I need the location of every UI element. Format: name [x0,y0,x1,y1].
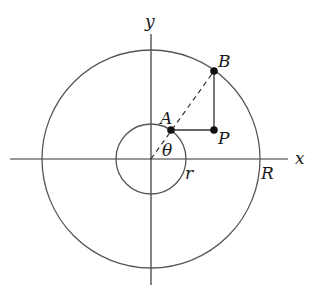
point-P [210,126,218,134]
label-y-axis: y [144,11,155,31]
label-point-A: A [158,108,172,128]
label-inner-radius: r [185,163,194,183]
label-x-axis: x [295,148,305,168]
diagram-svg: y x A B P θ r R [0,0,312,292]
label-point-P: P [217,128,230,148]
label-outer-radius: R [260,163,274,183]
point-B [210,67,218,75]
label-angle-theta: θ [162,140,172,160]
diagram-canvas: y x A B P θ r R [0,0,312,292]
label-point-B: B [217,51,231,71]
